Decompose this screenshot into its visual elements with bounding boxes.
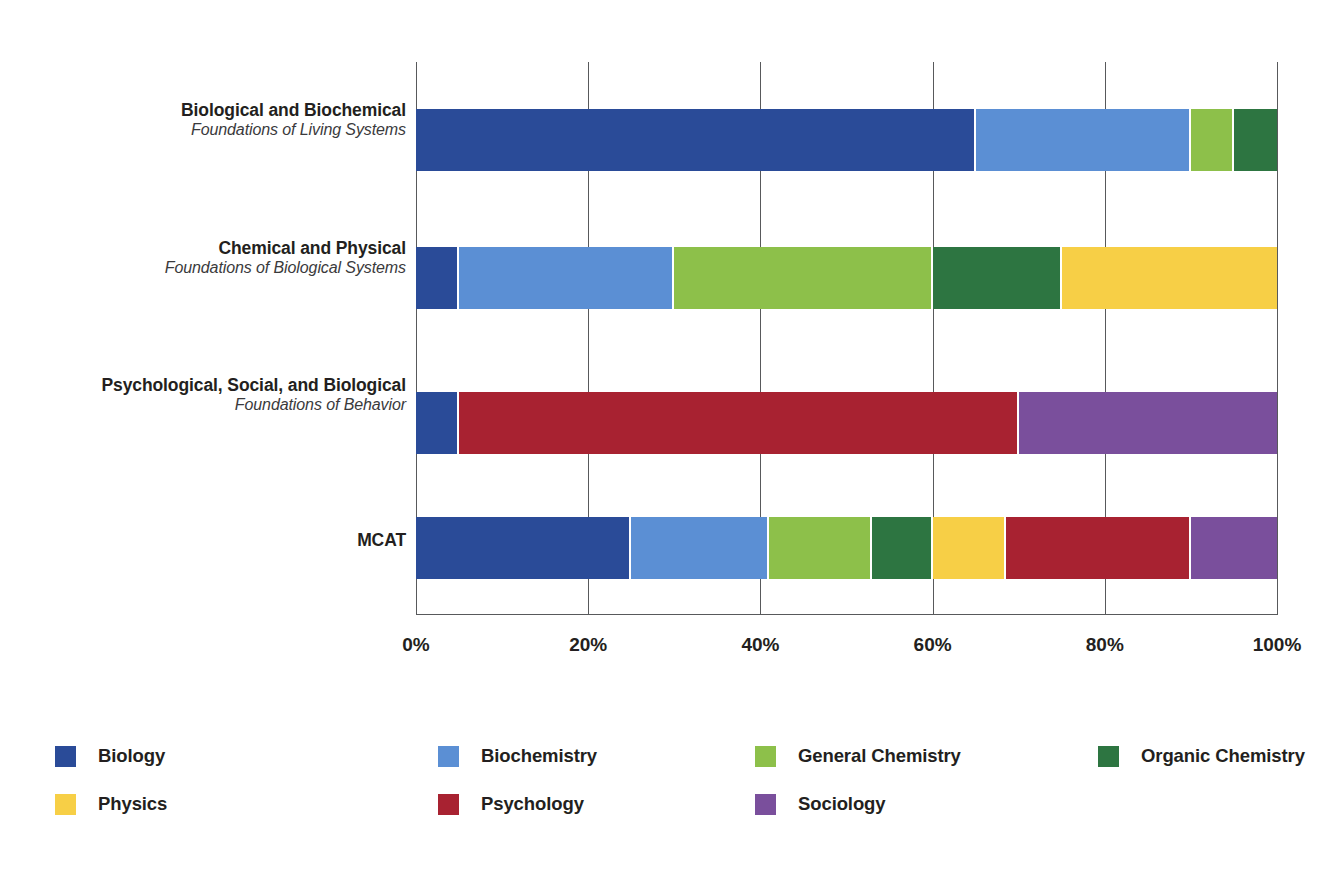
category-label-main: Chemical and Physical	[6, 238, 406, 259]
legend-swatch-icon	[755, 794, 776, 815]
legend-swatch-icon	[755, 746, 776, 767]
bar-segment-biochemistry	[631, 517, 769, 579]
bar-segment-biology	[416, 517, 631, 579]
bar-segment-psychology	[459, 392, 1019, 454]
bar-segment-biology	[416, 109, 976, 171]
bar-segment-biochemistry	[459, 247, 674, 309]
legend-label: Sociology	[798, 793, 886, 815]
legend-item-physics[interactable]: Physics	[55, 793, 167, 815]
legend-label: Biochemistry	[481, 745, 597, 767]
bar-segment-biology	[416, 392, 459, 454]
bar-segment-sociology	[1191, 517, 1277, 579]
legend-swatch-icon	[438, 746, 459, 767]
legend-item-general-chemistry[interactable]: General Chemistry	[755, 745, 961, 767]
bar-segment-sociology	[1019, 392, 1277, 454]
legend-item-biology[interactable]: Biology	[55, 745, 165, 767]
legend-swatch-icon	[438, 794, 459, 815]
bar-segment-general-chemistry	[1191, 109, 1234, 171]
legend-label: General Chemistry	[798, 745, 961, 767]
x-tick-label: 80%	[1060, 634, 1150, 656]
legend-item-psychology[interactable]: Psychology	[438, 793, 584, 815]
legend-item-biochemistry[interactable]: Biochemistry	[438, 745, 597, 767]
bar-segment-organic-chemistry	[1234, 109, 1277, 171]
stacked-bar-chart: Biological and Biochemical Foundations o…	[0, 0, 1339, 871]
legend-item-organic-chemistry[interactable]: Organic Chemistry	[1098, 745, 1305, 767]
bar-segment-general-chemistry	[769, 517, 872, 579]
bar-segment-physics	[933, 517, 1006, 579]
bar-row	[416, 392, 1277, 454]
bar-segment-organic-chemistry	[872, 517, 932, 579]
category-label-sub: Foundations of Biological Systems	[6, 259, 406, 278]
category-label-main: MCAT	[6, 530, 406, 551]
plot-area	[416, 62, 1277, 615]
bar-segment-physics	[1062, 247, 1277, 309]
bar-segment-psychology	[1006, 517, 1191, 579]
bar-row	[416, 517, 1277, 579]
x-tick-label: 0%	[371, 634, 461, 656]
legend-label: Biology	[98, 745, 165, 767]
category-label-sub: Foundations of Living Systems	[6, 121, 406, 140]
bar-segment-biochemistry	[976, 109, 1191, 171]
legend-label: Organic Chemistry	[1141, 745, 1305, 767]
x-tick-label: 60%	[888, 634, 978, 656]
x-axis-line	[416, 614, 1278, 615]
x-tick-label: 100%	[1232, 634, 1322, 656]
bar-row	[416, 247, 1277, 309]
legend-label: Psychology	[481, 793, 584, 815]
x-tick-label: 40%	[715, 634, 805, 656]
category-label-main: Biological and Biochemical	[6, 100, 406, 121]
category-label-sub: Foundations of Behavior	[6, 396, 406, 415]
bar-segment-general-chemistry	[674, 247, 932, 309]
legend-label: Physics	[98, 793, 167, 815]
gridline-100	[1277, 62, 1278, 615]
category-label-main: Psychological, Social, and Biological	[6, 375, 406, 396]
bar-segment-biology	[416, 247, 459, 309]
legend-item-sociology[interactable]: Sociology	[755, 793, 886, 815]
legend-swatch-icon	[55, 746, 76, 767]
legend-swatch-icon	[1098, 746, 1119, 767]
legend-swatch-icon	[55, 794, 76, 815]
bar-segment-organic-chemistry	[933, 247, 1062, 309]
x-tick-label: 20%	[543, 634, 633, 656]
bar-row	[416, 109, 1277, 171]
